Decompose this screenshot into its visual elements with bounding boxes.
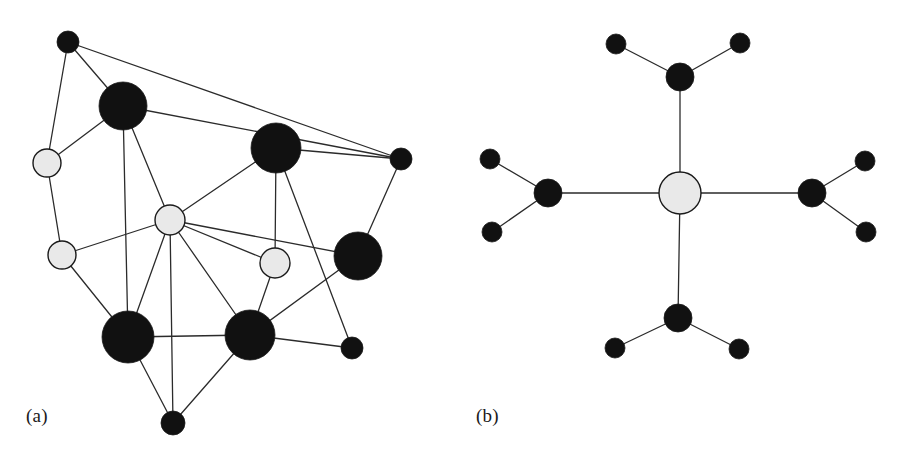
graph-edge xyxy=(170,220,275,263)
graph-node-black-small[interactable] xyxy=(341,337,363,359)
graph-node-black-medium[interactable] xyxy=(666,63,694,91)
graph-edge xyxy=(62,220,170,255)
graph-canvas xyxy=(0,0,900,472)
graph-node-black-large[interactable] xyxy=(334,232,382,280)
graph-edge xyxy=(170,220,358,256)
graph-node-black-small[interactable] xyxy=(856,222,876,242)
graph-node-black-medium[interactable] xyxy=(534,179,562,207)
graph-node-black-small[interactable] xyxy=(855,151,875,171)
nodes-layer xyxy=(33,31,876,435)
panel-label-b: (b) xyxy=(476,405,499,427)
graph-node-black-small[interactable] xyxy=(390,148,412,170)
graph-node-black-large[interactable] xyxy=(99,82,147,130)
graph-node-black-small[interactable] xyxy=(482,222,502,242)
graph-node-black-small[interactable] xyxy=(480,149,500,169)
graph-edge xyxy=(47,42,68,163)
graph-node-black-small[interactable] xyxy=(606,34,626,54)
graph-node-gray-medium[interactable] xyxy=(48,241,76,269)
graph-node-gray-medium[interactable] xyxy=(33,149,61,177)
graph-edge xyxy=(123,106,128,337)
graph-node-black-small[interactable] xyxy=(729,339,749,359)
graph-node-black-large[interactable] xyxy=(225,310,275,360)
graph-node-gray-medium[interactable] xyxy=(260,248,290,278)
graph-node-gray-medium[interactable] xyxy=(155,205,185,235)
panel-label-a: (a) xyxy=(26,405,48,427)
graph-node-gray-hub[interactable] xyxy=(659,172,701,214)
graph-node-black-large[interactable] xyxy=(251,123,301,173)
graph-node-black-small[interactable] xyxy=(161,411,185,435)
graph-node-black-small[interactable] xyxy=(730,33,750,53)
graph-node-black-large[interactable] xyxy=(102,311,154,363)
graph-node-black-medium[interactable] xyxy=(664,304,692,332)
figure-root: (a) (b) xyxy=(0,0,900,472)
graph-node-black-medium[interactable] xyxy=(798,179,826,207)
graph-edge xyxy=(170,220,173,423)
graph-node-black-small[interactable] xyxy=(57,31,79,53)
graph-node-black-small[interactable] xyxy=(605,338,625,358)
